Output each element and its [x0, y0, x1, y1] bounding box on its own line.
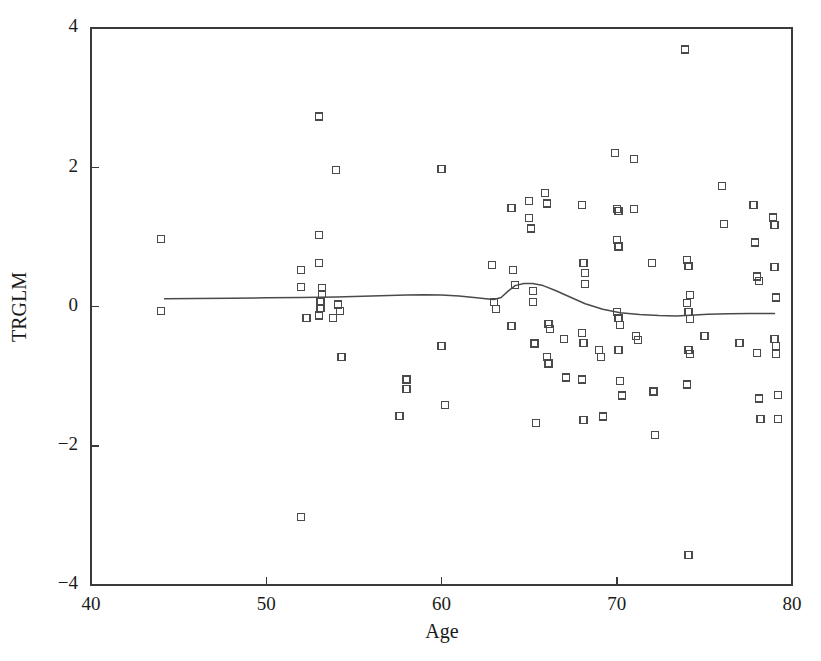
data-point [687, 316, 694, 323]
data-point [615, 208, 622, 215]
data-point [580, 339, 587, 346]
data-point [338, 353, 345, 360]
data-point-markers [158, 46, 782, 558]
data-point [757, 416, 764, 423]
data-point [315, 259, 322, 266]
y-tick-label: −4 [58, 572, 79, 593]
x-axis-title: Age [425, 620, 458, 643]
y-tick-label: 2 [69, 155, 79, 176]
data-point [531, 340, 538, 347]
x-tick-label: 40 [82, 593, 101, 614]
data-point [687, 291, 694, 298]
data-point [612, 149, 619, 156]
x-tick-label: 70 [607, 593, 626, 614]
data-point [597, 354, 604, 361]
y-axis-title: TRGLM [8, 272, 30, 342]
data-point [596, 346, 603, 353]
x-tick-label: 80 [783, 593, 802, 614]
data-point [541, 190, 548, 197]
x-tick-label: 50 [257, 593, 276, 614]
data-point [615, 346, 622, 353]
data-point [303, 315, 310, 322]
data-point [687, 350, 694, 357]
data-point [613, 206, 620, 213]
data-point [508, 323, 515, 330]
data-point [774, 391, 781, 398]
data-point [442, 401, 449, 408]
data-point [529, 298, 536, 305]
data-point [298, 267, 305, 274]
data-point [298, 513, 305, 520]
data-point [508, 204, 515, 211]
data-point [580, 416, 587, 423]
data-point [718, 183, 725, 190]
data-point [648, 260, 655, 267]
data-point [701, 332, 708, 339]
data-point [578, 201, 585, 208]
data-point [578, 329, 585, 336]
data-point [599, 413, 606, 420]
y-tick-label: −2 [58, 433, 78, 454]
data-point [438, 166, 445, 173]
data-point [315, 312, 322, 319]
data-point [529, 288, 536, 295]
data-point [774, 416, 781, 423]
scatter-plot-svg: 420−2−44050607080 Age TRGLM [0, 0, 821, 661]
data-point [329, 315, 336, 322]
data-point [683, 381, 690, 388]
data-point [753, 273, 760, 280]
data-point [403, 376, 410, 383]
data-point [736, 339, 743, 346]
data-point [158, 235, 165, 242]
data-point [631, 155, 638, 162]
data-point [755, 277, 762, 284]
data-point [685, 552, 692, 559]
data-point [650, 388, 657, 395]
data-point [543, 200, 550, 207]
data-point [403, 385, 410, 392]
data-point [619, 392, 626, 399]
data-point [489, 261, 496, 268]
data-point [652, 432, 659, 439]
y-tick-label: 0 [69, 294, 79, 315]
data-point [582, 281, 589, 288]
data-point [492, 306, 499, 313]
data-point [753, 350, 760, 357]
data-point [582, 270, 589, 277]
chart-figure: 420−2−44050607080 Age TRGLM [0, 0, 821, 661]
data-point [526, 197, 533, 204]
data-point [720, 221, 727, 228]
data-point [750, 201, 757, 208]
data-point [438, 343, 445, 350]
data-point [769, 214, 776, 221]
data-point [773, 343, 780, 350]
data-point [526, 215, 533, 222]
data-point [527, 225, 534, 232]
y-tick-label: 4 [69, 15, 79, 36]
data-point [755, 395, 762, 402]
data-point [613, 236, 620, 243]
data-point [752, 239, 759, 246]
data-point [633, 332, 640, 339]
data-point [773, 294, 780, 301]
data-point [510, 267, 517, 274]
data-point [158, 308, 165, 315]
x-tick-label: 60 [432, 593, 451, 614]
data-point [545, 320, 552, 327]
data-point [562, 374, 569, 381]
data-point [396, 412, 403, 419]
data-point [615, 243, 622, 250]
data-point [634, 336, 641, 343]
data-point [333, 167, 340, 174]
data-point [533, 419, 540, 426]
data-point [561, 336, 568, 343]
data-point [315, 231, 322, 238]
data-point [771, 263, 778, 270]
data-point [315, 113, 322, 120]
data-point [617, 378, 624, 385]
data-point [771, 336, 778, 343]
data-point [578, 376, 585, 383]
data-point [683, 300, 690, 307]
data-point [617, 322, 624, 329]
data-point [773, 350, 780, 357]
